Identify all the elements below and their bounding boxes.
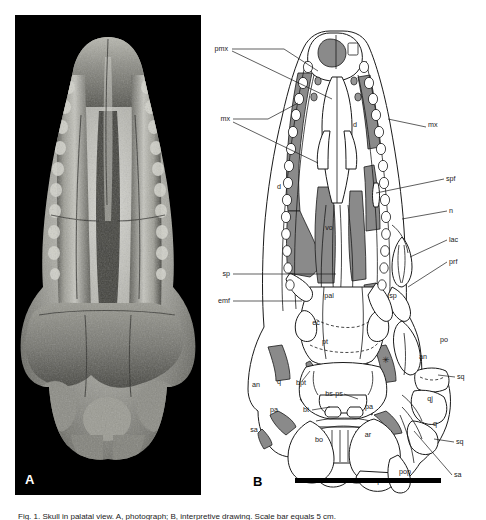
panel-a-letter: A — [25, 472, 35, 487]
panel-a-photograph: A — [15, 15, 201, 495]
asterisk-mark: ✳ — [382, 355, 390, 365]
label-sa-right: sa — [454, 470, 462, 479]
label-mx-left: mx — [220, 114, 230, 123]
fossil-skull-photo — [15, 15, 201, 495]
skull-interpretive-drawing: .bone{fill:#ffffff;stroke:#1a1a1a;stroke… — [206, 15, 481, 495]
label-pal: pal — [324, 291, 334, 300]
label-an-left: an — [252, 380, 260, 389]
label-sp-left: sp — [222, 269, 230, 278]
label-prf: prf — [449, 257, 457, 266]
label-pt: pt — [322, 337, 328, 346]
label-bpt: bpt — [296, 378, 306, 387]
figure-caption: Fig. 1. Skull in palatal view. A, photog… — [18, 512, 468, 520]
label-sp-right: sp — [389, 291, 397, 300]
label-q-left: q — [277, 377, 281, 386]
panel-b-letter: B — [253, 474, 263, 489]
label-ar: ar — [365, 430, 372, 439]
label-po: po — [440, 335, 448, 344]
label-n: n — [449, 206, 453, 215]
label-q-right: q — [433, 419, 437, 428]
label-sa-left: sa — [250, 425, 258, 434]
label-pa-right: pa — [365, 402, 373, 411]
label-mx-right: mx — [428, 120, 438, 129]
label-qj: qj — [427, 394, 433, 403]
label-sq-upper: sq — [457, 372, 465, 381]
label-emf: emf — [218, 296, 230, 305]
label-d-lower: d — [277, 182, 281, 191]
label-bs-ps: bs-ps — [325, 389, 343, 398]
label-d-upper: d — [353, 120, 357, 129]
label-sq-lower: sq — [456, 437, 464, 446]
label-bo: bo — [315, 435, 323, 444]
label-pa-left: pa — [270, 405, 278, 414]
label-pmx: pmx — [214, 44, 228, 53]
label-vo: vo — [325, 223, 333, 232]
label-pop: pop — [399, 467, 411, 476]
scale-bar — [295, 478, 441, 483]
label-bt: bt — [303, 405, 309, 414]
figure-plate: A .bone{fill:#ffffff;stroke:#1a1a1a;stro… — [0, 0, 486, 520]
label-an-right: an — [419, 352, 427, 361]
panel-b-line-drawing: .bone{fill:#ffffff;stroke:#1a1a1a;stroke… — [206, 15, 481, 495]
label-spf: spf — [446, 174, 456, 183]
label-ec: ec — [312, 318, 320, 327]
label-lac: lac — [449, 235, 459, 244]
